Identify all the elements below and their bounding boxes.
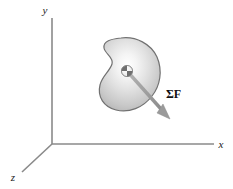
x-axis-label: x	[218, 138, 224, 150]
force-label: ΣF	[166, 87, 181, 101]
z-axis-label: z	[10, 171, 16, 183]
y-axis-label: y	[42, 4, 48, 16]
z-axis-line	[22, 144, 52, 172]
figure-canvas: y x z ΣF	[0, 0, 233, 189]
physics-figure: y x z ΣF	[0, 0, 233, 189]
center-of-mass-marker	[121, 65, 132, 76]
